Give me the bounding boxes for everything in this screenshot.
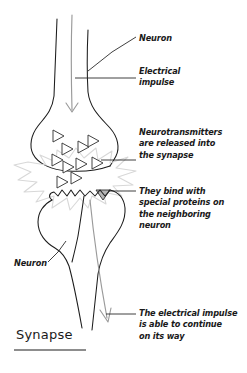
label-neurotransmitters: Neurotransmitters are released into the … [139,127,222,161]
label-line: Neuron [14,258,47,269]
label-line: Electrical [139,66,180,77]
label-line: neuron [139,220,224,231]
label-line: Neurotransmitters [139,127,222,138]
label-line: special proteins on [139,197,224,208]
neurotransmitter-triangle [52,154,63,166]
presynaptic-neuron-outline [31,19,118,171]
neurotransmitter-triangle [53,130,64,142]
neurotransmitter-triangle [88,135,99,147]
diagram-title: Synapse [16,327,73,342]
electrical-impulse-arrow-bottom [90,200,111,322]
label-line: The electrical impulse [139,308,237,319]
electrical-impulse-arrow-top [66,15,78,112]
label-binding: They bind with special proteins on the n… [139,186,224,232]
label-line: are released into [139,138,222,149]
neurotransmitter-triangle [71,172,82,184]
label-line: They bind with [139,186,224,197]
label-line: impulse [139,77,180,88]
label-electrical-impulse: Electrical impulse [139,66,180,89]
neurotransmitter-triangle [78,141,89,153]
label-neuron-bottom: Neuron [14,258,47,269]
leader-neuron-bottom [48,241,66,262]
label-neuron-top: Neuron [139,33,172,44]
postsynaptic-neuron-outline [38,190,125,330]
label-line: the neighboring [139,209,224,220]
leader-neuron-top [88,37,136,71]
synapse-diagram: Neuron Electrical impulse Neurotransmitt… [0,0,247,373]
neurotransmitter-triangle [76,158,87,170]
neurotransmitter-triangle [62,143,73,155]
label-line: on its way [139,331,237,342]
label-impulse-continues: The electrical impulse is able to contin… [139,308,237,342]
label-line: is able to continue [139,319,237,330]
neurotransmitter-triangle [57,176,68,188]
label-line: the synapse [139,150,222,161]
label-line: Neuron [139,33,172,44]
